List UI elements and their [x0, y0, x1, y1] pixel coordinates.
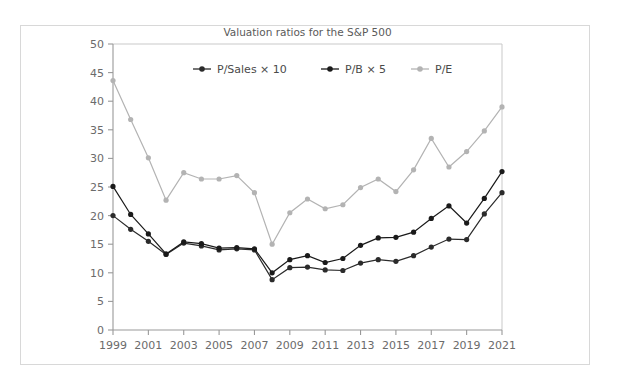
data-point	[128, 227, 133, 232]
data-point	[429, 216, 434, 221]
data-point	[110, 213, 115, 218]
data-point	[446, 203, 451, 208]
data-point	[376, 176, 381, 181]
data-point	[429, 244, 434, 249]
data-point	[340, 268, 345, 273]
x-tick-label: 2019	[453, 339, 481, 352]
legend-marker	[199, 66, 205, 72]
data-point	[287, 265, 292, 270]
y-tick-label: 10	[90, 267, 104, 280]
data-point	[163, 198, 168, 203]
legend-marker	[417, 66, 423, 72]
x-tick-label: 2007	[240, 339, 268, 352]
data-point	[323, 260, 328, 265]
x-tick-label: 1999	[99, 339, 127, 352]
legend-marker	[327, 66, 333, 72]
data-point	[216, 246, 221, 251]
data-point	[464, 149, 469, 154]
data-point	[376, 235, 381, 240]
series-p-sales-10	[110, 190, 504, 282]
data-point	[482, 196, 487, 201]
legend-item[interactable]: P/E	[411, 63, 452, 76]
data-point	[110, 184, 115, 189]
x-tick-label: 2001	[134, 339, 162, 352]
data-point	[499, 190, 504, 195]
data-point	[499, 104, 504, 109]
data-point	[287, 257, 292, 262]
legend-label: P/Sales × 10	[217, 63, 287, 76]
data-point	[429, 136, 434, 141]
chart-canvas: 0510152025303540455019992001200320052007…	[0, 0, 636, 387]
data-point	[482, 211, 487, 216]
data-point	[146, 239, 151, 244]
data-point	[146, 155, 151, 160]
series-p-b-5	[110, 169, 504, 275]
y-tick-label: 30	[90, 152, 104, 165]
data-point	[464, 220, 469, 225]
x-tick-label: 2009	[276, 339, 304, 352]
data-point	[323, 267, 328, 272]
data-point	[482, 128, 487, 133]
data-point	[146, 231, 151, 236]
legend-item[interactable]: P/Sales × 10	[193, 63, 287, 76]
x-tick-label: 2017	[417, 339, 445, 352]
data-point	[305, 253, 310, 258]
x-tick-label: 2011	[311, 339, 339, 352]
legend-label: P/E	[435, 63, 452, 76]
chart-title: Valuation ratios for the S&P 500	[223, 26, 391, 38]
y-tick-label: 40	[90, 95, 104, 108]
x-tick-label: 2005	[205, 339, 233, 352]
y-tick-label: 25	[90, 181, 104, 194]
data-point	[216, 176, 221, 181]
data-point	[411, 230, 416, 235]
data-point	[199, 241, 204, 246]
data-point	[358, 243, 363, 248]
valuation-ratios-chart: 0510152025303540455019992001200320052007…	[0, 0, 636, 387]
data-point	[128, 212, 133, 217]
series-p-e	[110, 78, 504, 247]
data-point	[128, 117, 133, 122]
data-point	[234, 173, 239, 178]
y-tick-label: 15	[90, 238, 104, 251]
data-point	[270, 270, 275, 275]
y-tick-label: 5	[97, 295, 104, 308]
data-point	[411, 167, 416, 172]
data-point	[181, 170, 186, 175]
legend-label: P/B × 5	[345, 63, 386, 76]
data-point	[323, 206, 328, 211]
data-point	[464, 237, 469, 242]
data-point	[252, 190, 257, 195]
x-tick-label: 2021	[488, 339, 516, 352]
data-point	[358, 185, 363, 190]
data-point	[340, 256, 345, 261]
data-point	[252, 246, 257, 251]
data-point	[393, 189, 398, 194]
data-point	[287, 210, 292, 215]
data-point	[181, 239, 186, 244]
data-point	[110, 78, 115, 83]
legend-item[interactable]: P/B × 5	[321, 63, 386, 76]
data-point	[446, 236, 451, 241]
data-point	[446, 164, 451, 169]
data-point	[234, 245, 239, 250]
data-point	[199, 176, 204, 181]
y-tick-label: 35	[90, 124, 104, 137]
data-point	[411, 253, 416, 258]
data-point	[163, 251, 168, 256]
data-point	[393, 259, 398, 264]
data-point	[305, 196, 310, 201]
y-tick-label: 20	[90, 210, 104, 223]
data-point	[376, 257, 381, 262]
x-tick-label: 2013	[347, 339, 375, 352]
x-tick-label: 2015	[382, 339, 410, 352]
data-point	[340, 202, 345, 207]
data-point	[499, 169, 504, 174]
data-point	[270, 242, 275, 247]
y-tick-label: 0	[97, 324, 104, 337]
data-point	[393, 235, 398, 240]
y-tick-label: 50	[90, 38, 104, 51]
x-tick-label: 2003	[170, 339, 198, 352]
data-point	[270, 277, 275, 282]
data-point	[358, 260, 363, 265]
series-line	[113, 81, 502, 245]
